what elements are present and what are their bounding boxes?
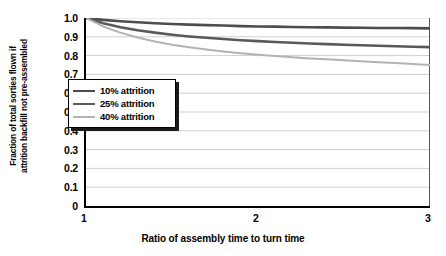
- legend: 10% attrition25% attrition40% attrition: [68, 79, 176, 128]
- y-tick-label: 0.8: [64, 50, 78, 62]
- y-tick-label: 1.0: [64, 12, 78, 24]
- legend-label: 25% attrition: [100, 98, 154, 109]
- y-axis-title: Fraction of total sorties flown if attri…: [0, 0, 38, 212]
- x-tick-label: 2: [253, 212, 259, 224]
- legend-swatch-icon: [73, 116, 95, 118]
- data-curves: [86, 18, 430, 65]
- y-tick-label: 0.2: [64, 162, 78, 174]
- legend-item-2: 25% attrition: [73, 97, 170, 110]
- legend-swatch-icon: [73, 90, 95, 92]
- x-axis-tick-labels: 123: [0, 212, 446, 228]
- chart-figure: Fraction of total sorties flown if attri…: [0, 0, 446, 256]
- y-tick-label: 0.1: [64, 181, 78, 193]
- y-axis-title-line-2: attrition backfill not pre-assembled: [19, 39, 30, 173]
- legend-label: 40% attrition: [100, 111, 154, 122]
- y-tick-label: 0: [72, 200, 78, 212]
- legend-item-3: 40% attrition: [73, 110, 170, 123]
- legend-label: 10% attrition: [100, 85, 154, 96]
- legend-item-1: 10% attrition: [73, 84, 170, 97]
- y-tick-label: 0.9: [64, 31, 78, 43]
- x-axis-title: Ratio of assembly time to turn time: [0, 233, 446, 244]
- legend-swatch-icon: [73, 103, 95, 105]
- x-tick-label: 3: [425, 212, 431, 224]
- y-axis-title-line-1: Fraction of total sorties flown if: [8, 39, 19, 173]
- series-line-1: [86, 18, 430, 28]
- x-tick-label: 1: [81, 212, 87, 224]
- y-tick-label: 0.3: [64, 144, 78, 156]
